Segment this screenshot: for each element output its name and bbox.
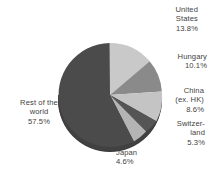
pie-label-china: China (ex. HK) 8.6% <box>175 86 204 114</box>
pie-chart: United States 13.8% Hungary 10.1% China … <box>0 0 212 179</box>
pie-label-hungary-value: 10.1% <box>178 61 207 70</box>
pie-label-united-states: United States 13.8% <box>175 5 198 33</box>
pie-label-united-states-line1: United <box>175 5 198 14</box>
pie-label-china-value: 8.6% <box>175 105 204 114</box>
pie-label-japan-value: 4.6% <box>116 157 137 166</box>
pie-label-hungary: Hungary 10.1% <box>178 52 207 71</box>
pie-label-switzerland: Switzer- land 5.3% <box>177 119 205 147</box>
pie-label-japan: Japan 4.6% <box>116 148 137 167</box>
pie-label-china-line1: China <box>175 86 204 95</box>
pie-label-rest-of-world-line1: Rest of the <box>6 98 72 107</box>
pie-label-japan-line1: Japan <box>116 148 137 157</box>
pie-label-rest-of-world: Rest of the world 57.5% <box>6 98 72 126</box>
pie-label-united-states-line2: States <box>175 14 198 23</box>
pie-label-switzerland-line2: land <box>177 128 205 137</box>
pie-label-switzerland-value: 5.3% <box>177 138 205 147</box>
pie-label-rest-of-world-line2: world <box>6 107 72 116</box>
pie-label-hungary-line1: Hungary <box>178 52 207 61</box>
pie-label-rest-of-world-value: 57.5% <box>6 117 72 126</box>
pie-label-united-states-value: 13.8% <box>175 24 198 33</box>
pie-label-switzerland-line1: Switzer- <box>177 119 205 128</box>
pie-label-china-line2: (ex. HK) <box>175 95 204 104</box>
